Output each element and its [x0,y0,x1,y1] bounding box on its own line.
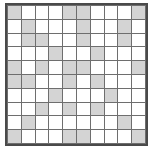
grid-cell [132,88,146,102]
grid-cell [90,102,104,116]
grid-row [8,33,146,47]
grid-cell [35,6,49,20]
grid-cell [118,19,132,33]
grid-cell [35,33,49,47]
grid-row [8,102,146,116]
grid-cell [63,130,77,144]
grid-cell [49,130,63,144]
grid-cell [35,74,49,88]
grid-cell [132,130,146,144]
grid-row [8,130,146,144]
grid-cell [104,116,118,130]
grid-cell [90,116,104,130]
grid-cell [90,19,104,33]
grid-cell [35,116,49,130]
grid-cell [90,74,104,88]
grid-cell [76,88,90,102]
grid-cell [35,61,49,75]
grid-cell [35,47,49,61]
grid-cell [132,74,146,88]
grid-cell [49,47,63,61]
grid-cell [118,47,132,61]
grid-cell [21,102,35,116]
grid-cell [8,61,22,75]
grid-cell [76,6,90,20]
grid-cell [132,61,146,75]
grid-cell [104,74,118,88]
grid-cell [8,88,22,102]
grid-cell [104,33,118,47]
grid-cell [21,130,35,144]
grid-cell [90,130,104,144]
grid-cell [49,74,63,88]
grid-cell [76,74,90,88]
grid-cell [118,88,132,102]
grid-cell [76,61,90,75]
grid-cell [118,116,132,130]
grid-table [7,5,146,144]
grid-cell [90,61,104,75]
grid-row [8,19,146,33]
grid-cell [118,102,132,116]
grid-cell [49,33,63,47]
grid-cell [104,19,118,33]
grid-cell [49,116,63,130]
grid-cell [63,6,77,20]
grid-cell [76,47,90,61]
grid-row [8,47,146,61]
grid-cell [21,116,35,130]
grid-cell [90,88,104,102]
grid-cell [63,102,77,116]
grid-cell [21,47,35,61]
grid-cell [21,19,35,33]
grid-cell [8,47,22,61]
grid-cell [76,130,90,144]
grid-cell [63,47,77,61]
grid-cell [49,19,63,33]
grid-cell [90,6,104,20]
grid-row [8,74,146,88]
grid-cell [90,33,104,47]
grid-cell [63,33,77,47]
grid-cell [118,61,132,75]
grid-cell [8,116,22,130]
grid-cell [118,130,132,144]
grid-cell [21,33,35,47]
grid-cell [104,6,118,20]
grid-cell [49,61,63,75]
grid-cell [49,102,63,116]
grid-cell [21,88,35,102]
grid-cell [21,6,35,20]
grid-cell [76,102,90,116]
grid-cell [104,102,118,116]
grid-cell [132,19,146,33]
grid-cell [132,6,146,20]
grid-row [8,61,146,75]
grid-cell [8,33,22,47]
grid-cell [132,33,146,47]
grid-row [8,6,146,20]
grid-cell [132,116,146,130]
grid-cell [21,61,35,75]
grid-row [8,88,146,102]
grid-cell [76,19,90,33]
grid-cell [21,74,35,88]
grid-cell [63,74,77,88]
grid-cell [104,47,118,61]
grid-cell [8,102,22,116]
grid-body [8,6,146,144]
grid-cell [8,130,22,144]
grid-cell [104,88,118,102]
grid-cell [118,33,132,47]
grid-cell [63,61,77,75]
grid-cell [63,88,77,102]
grid-cell [35,19,49,33]
grid-cell [8,19,22,33]
grid-cell [49,88,63,102]
grid-cell [104,61,118,75]
grid-cell [63,19,77,33]
grid-row [8,116,146,130]
grid-cell [63,116,77,130]
grid-cell [104,130,118,144]
grid-cell [76,116,90,130]
